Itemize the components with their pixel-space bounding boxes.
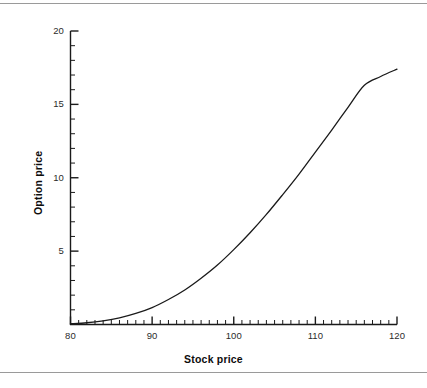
y-tick-label: 15 (40, 99, 64, 109)
option-price-plot (0, 0, 427, 388)
y-tick-label: 20 (40, 26, 64, 36)
x-tick-label: 110 (301, 331, 329, 341)
chart-figure: 5101520 8090100110120 Option price Stock… (0, 0, 427, 388)
y-tick-label: 5 (40, 246, 64, 256)
x-tick-label: 120 (383, 331, 411, 341)
x-tick-label: 90 (138, 331, 166, 341)
x-axis-title: Stock price (0, 353, 427, 365)
y-axis-ticks (71, 31, 79, 325)
x-tick-label: 80 (57, 331, 85, 341)
y-axis-title: Option price (32, 151, 44, 215)
option-price-curve (71, 69, 398, 324)
x-tick-label: 100 (220, 331, 248, 341)
